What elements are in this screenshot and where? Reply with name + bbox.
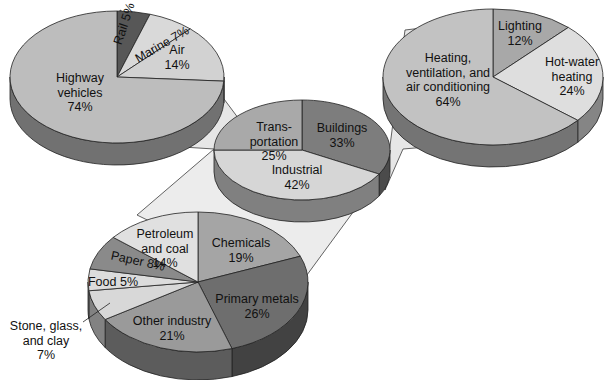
exploded-pie-chart: Highwayvehicles74%Rail 5%Marine 7%Air14%… (0, 0, 610, 380)
label-stone-glass-clay: Stone, glass,and clay7% (10, 319, 82, 362)
label-food: Food 5% (88, 275, 138, 289)
pie-sector-overview (214, 100, 390, 222)
